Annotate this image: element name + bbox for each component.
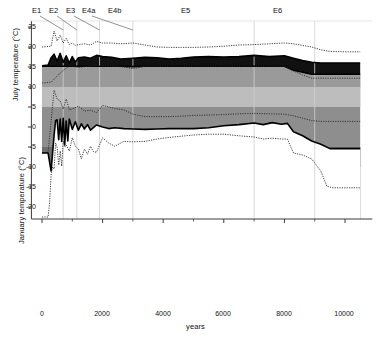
- plot-canvas: [0, 0, 391, 340]
- figure-panel: July temperature (°C) January temperatur…: [0, 0, 391, 340]
- plot-content: [42, 21, 360, 219]
- event-leader-line-4: [92, 16, 133, 30]
- event-leader-line-3: [74, 16, 100, 30]
- series-july-max-dotted: [42, 31, 360, 52]
